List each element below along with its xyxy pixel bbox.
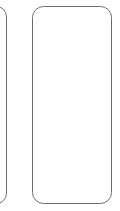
frames-illustration xyxy=(0,0,120,211)
frame-left-partial-outline xyxy=(0,6,7,204)
canvas-root: Two rounded rectangle outlines on a plai… xyxy=(0,0,120,211)
frame-right-full-outline xyxy=(33,7,112,204)
